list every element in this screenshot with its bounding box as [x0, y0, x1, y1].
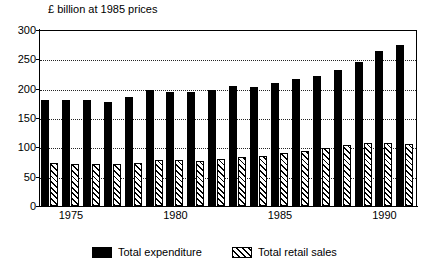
bar-total-retail-sales	[364, 143, 372, 206]
y-axis-tick-labels: 050100150200250300	[0, 0, 36, 274]
bar-total-expenditure	[62, 100, 70, 206]
chart-legend: Total expenditure Total retail sales	[0, 246, 423, 268]
y-tick-mark-300	[36, 30, 40, 31]
bar-total-expenditure	[396, 45, 404, 206]
bar-total-retail-sales	[92, 164, 100, 206]
bar-group	[375, 30, 393, 206]
bar-group	[104, 30, 122, 206]
y-tick-label-150: 150	[2, 113, 36, 124]
x-axis-tick-labels: 1975198019851990	[0, 209, 423, 229]
hatched-swatch-icon	[232, 247, 252, 258]
y-tick-mark-150	[36, 118, 40, 119]
bar-group	[229, 30, 247, 206]
bar-total-expenditure	[104, 102, 112, 206]
y-tick-label-50: 50	[2, 171, 36, 182]
bar-group	[313, 30, 331, 206]
bar-total-retail-sales	[155, 160, 163, 206]
y-tick-label-100: 100	[2, 142, 36, 153]
legend-item-total-expenditure: Total expenditure	[92, 246, 202, 258]
bar-total-expenditure	[125, 97, 133, 206]
x-tick-label-1980: 1980	[163, 209, 187, 221]
y-tick-mark-200	[36, 89, 40, 90]
bar-total-retail-sales	[259, 156, 267, 206]
bar-group	[41, 30, 59, 206]
bar-group	[146, 30, 164, 206]
bar-total-expenditure	[41, 100, 49, 206]
y-tick-label-200: 200	[2, 83, 36, 94]
bar-group	[125, 30, 143, 206]
bar-total-retail-sales	[217, 159, 225, 206]
bar-group	[355, 30, 373, 206]
bar-total-expenditure	[187, 92, 195, 206]
x-tick-label-1975: 1975	[59, 209, 83, 221]
bar-total-expenditure	[334, 70, 342, 206]
bar-total-expenditure	[166, 92, 174, 206]
x-tick-label-1990: 1990	[372, 209, 396, 221]
bar-group	[166, 30, 184, 206]
bar-total-retail-sales	[343, 145, 351, 206]
y-tick-label-300: 300	[2, 25, 36, 36]
bar-total-retail-sales	[196, 161, 204, 206]
bar-total-expenditure	[83, 100, 91, 206]
bar-total-expenditure	[250, 87, 258, 206]
legend-label-total-retail-sales: Total retail sales	[258, 246, 337, 258]
x-axis-line	[39, 206, 418, 207]
y-tick-mark-100	[36, 147, 40, 148]
bar-total-expenditure	[292, 79, 300, 206]
bar-total-expenditure	[229, 86, 237, 206]
y-tick-mark-0	[36, 206, 40, 207]
bar-group	[292, 30, 310, 206]
bar-total-expenditure	[313, 76, 321, 206]
chart-title: £ billion at 1985 prices	[48, 3, 157, 15]
solid-black-swatch-icon	[92, 247, 112, 258]
y-tick-mark-50	[36, 177, 40, 178]
bar-total-retail-sales	[384, 143, 392, 206]
bar-total-expenditure	[355, 62, 363, 206]
bar-total-retail-sales	[113, 164, 121, 206]
bar-group	[187, 30, 205, 206]
bar-total-expenditure	[146, 90, 154, 206]
bar-group	[250, 30, 268, 206]
legend-item-total-retail-sales: Total retail sales	[232, 246, 337, 258]
bar-group	[62, 30, 80, 206]
bar-total-retail-sales	[322, 148, 330, 206]
bar-total-retail-sales	[134, 163, 142, 206]
bar-chart: £ billion at 1985 prices 050100150200250…	[0, 0, 423, 274]
bar-group	[208, 30, 226, 206]
bar-group	[396, 30, 414, 206]
legend-label-total-expenditure: Total expenditure	[118, 246, 202, 258]
bar-total-retail-sales	[71, 164, 79, 206]
bar-group	[334, 30, 352, 206]
bar-total-expenditure	[208, 90, 216, 206]
bar-total-retail-sales	[280, 153, 288, 206]
bar-total-expenditure	[271, 83, 279, 206]
bar-total-retail-sales	[50, 163, 58, 206]
bar-total-retail-sales	[405, 144, 413, 206]
y-tick-mark-250	[36, 59, 40, 60]
bar-total-retail-sales	[301, 151, 309, 206]
bars-layer	[40, 30, 417, 206]
x-tick-label-1985: 1985	[268, 209, 292, 221]
bar-total-expenditure	[375, 51, 383, 206]
bar-group	[83, 30, 101, 206]
y-tick-label-250: 250	[2, 54, 36, 65]
bar-group	[271, 30, 289, 206]
bar-total-retail-sales	[238, 157, 246, 206]
bar-total-retail-sales	[175, 160, 183, 206]
